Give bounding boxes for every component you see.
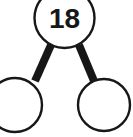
number-bond-diagram: 18 — [0, 0, 133, 137]
part-circle-left[interactable] — [0, 78, 42, 132]
whole-value-label: 18 — [49, 3, 80, 34]
part-circle-right[interactable] — [78, 79, 130, 131]
number-bond-canvas: 18 — [0, 0, 133, 137]
